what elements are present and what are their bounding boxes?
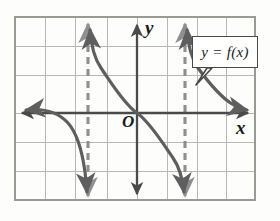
y-axis-label: y: [145, 18, 153, 37]
origin-label: O: [122, 113, 134, 130]
coordinate-plane: [0, 0, 280, 221]
graph-figure: y x O y = f(x): [0, 0, 280, 221]
x-axis-label: x: [236, 118, 246, 137]
function-callout-box: y = f(x): [192, 36, 258, 68]
curve-branch-left: [26, 110, 87, 192]
function-callout-label: y = f(x): [201, 44, 249, 61]
